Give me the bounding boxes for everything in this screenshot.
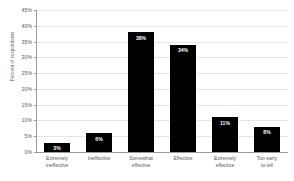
bar-value-label: 6%: [86, 136, 112, 142]
bar-group: 6%: [86, 10, 112, 152]
bar: 11%: [212, 117, 238, 152]
y-axis-tick-label: 5%: [25, 133, 33, 139]
y-axis-tick-label: 30%: [22, 54, 32, 60]
bar-group: 34%: [170, 10, 196, 152]
bar-value-label: 8%: [254, 129, 280, 135]
x-axis-category-label: Effective: [162, 155, 204, 162]
y-axis-tick-label: 40%: [22, 23, 32, 29]
x-axis-category-label: Somewhat effective: [120, 155, 162, 168]
bar-value-label: 11%: [212, 120, 238, 126]
y-axis-tick-label: 20%: [22, 86, 32, 92]
plot-area: 0%5%10%15%20%25%30%35%40%45% 3%6%38%34%1…: [36, 10, 288, 152]
bar: 8%: [254, 127, 280, 152]
x-axis-category-label: Extremely effective: [204, 155, 246, 168]
bar-group: 11%: [212, 10, 238, 152]
bar-group: 3%: [44, 10, 70, 152]
y-axis-tick-mark: [34, 152, 36, 153]
bar-value-label: 34%: [170, 47, 196, 53]
bar-value-label: 38%: [128, 35, 154, 41]
bar-group: 8%: [254, 10, 280, 152]
x-axis-category-labels: Extremely ineffectiveIneffectiveSomewhat…: [36, 155, 288, 179]
bar: 3%: [44, 143, 70, 152]
bar: 6%: [86, 133, 112, 152]
y-axis-tick-label: 15%: [22, 102, 32, 108]
bar-chart: Percent of respondents 0%5%10%15%20%25%3…: [0, 0, 294, 181]
y-axis-tick-label: 10%: [22, 117, 32, 123]
x-axis-category-label: Ineffective: [78, 155, 120, 162]
bar-value-label: 3%: [44, 145, 70, 151]
y-axis-tick-label: 0%: [25, 149, 33, 155]
bar: 34%: [170, 45, 196, 152]
x-axis-category-label: Too early to tell: [246, 155, 288, 168]
bar: 38%: [128, 32, 154, 152]
y-axis-tick-label: 25%: [22, 70, 32, 76]
y-axis-tick-label: 45%: [22, 7, 32, 13]
bar-group: 38%: [128, 10, 154, 152]
y-axis-title: Percent of respondents: [10, 7, 15, 107]
x-axis-line: [36, 152, 288, 153]
y-axis-tick-label: 35%: [22, 39, 32, 45]
x-axis-category-label: Extremely ineffective: [36, 155, 78, 168]
bars-layer: 3%6%38%34%11%8%: [36, 10, 288, 152]
